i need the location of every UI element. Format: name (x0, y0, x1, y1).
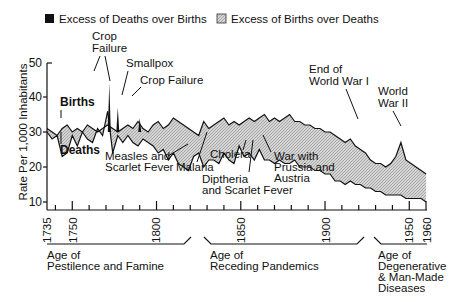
ww2-line1: World (378, 85, 408, 97)
era-1-line2: Pestilence and Famine (47, 260, 164, 272)
y-axis-label: Rate Per 1,000 Inhabitants (17, 63, 29, 200)
era-labels: Age of Pestilence and Famine Age of Rece… (47, 249, 446, 294)
legend-label-deaths: Excess of Deaths over Births (59, 13, 207, 25)
births-label: Births (60, 95, 95, 109)
legend-swatch-deaths (45, 14, 54, 23)
y-tick-40: 40 (29, 90, 43, 104)
crop-failure-2-label: Crop Failure (140, 74, 203, 86)
y-axis: 50 40 30 20 10 Rate Per 1,000 Inhabitant… (17, 56, 52, 210)
x-axis: 1735 1750 1800 1850 1900 1950 1960 (41, 201, 433, 243)
ww2-line2: War II (378, 97, 408, 109)
crop-failure-1-line2: Failure (92, 42, 127, 54)
x-tick-1850: 1850 (235, 217, 247, 243)
y-tick-30: 30 (29, 125, 43, 139)
era-3-line4: Diseases (378, 282, 426, 294)
legend: Excess of Deaths over Births Excess of B… (45, 13, 379, 25)
x-tick-1800: 1800 (150, 217, 162, 243)
deaths-label: Deaths (60, 143, 100, 157)
x-tick-1950: 1950 (403, 217, 415, 243)
x-tick-1900: 1900 (320, 217, 332, 243)
y-tick-50: 50 (29, 56, 43, 70)
birth-death-chart: Excess of Deaths over Births Excess of B… (0, 0, 458, 302)
x-tick-1750: 1750 (67, 217, 79, 243)
cholera-label: Cholera (210, 148, 251, 160)
crop-failure-1-line1: Crop (92, 30, 117, 42)
x-tick-1735: 1735 (41, 217, 53, 243)
y-tick-20: 20 (29, 160, 43, 174)
malaria-label: Malaria (176, 161, 214, 173)
diptheria-line2: and Scarlet Fever (202, 184, 293, 196)
y-tick-10: 10 (29, 195, 43, 209)
legend-swatch-births (217, 14, 226, 23)
legend-label-births: Excess of Births over Deaths (231, 13, 379, 25)
era-2-line2: Receding Pandemics (210, 260, 319, 272)
ww1-line2: World War I (309, 75, 369, 87)
ww1-line1: End of (309, 63, 343, 75)
war-prussia-line3: Austria (274, 172, 310, 184)
measles-line2: Scarlet Fever (105, 161, 174, 173)
x-tick-1960: 1960 (421, 217, 433, 243)
smallpox-label: Smallpox (126, 57, 174, 69)
